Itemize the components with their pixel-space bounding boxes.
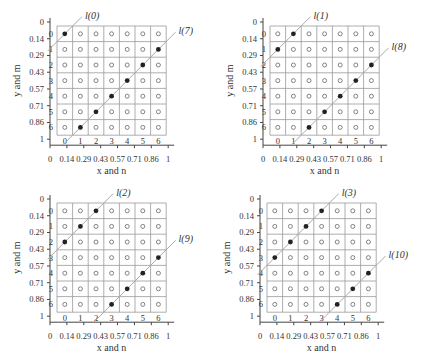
row-index-label: 3 bbox=[262, 76, 266, 86]
x-tick-label: 0.29 bbox=[76, 331, 91, 341]
hollow-dot bbox=[323, 47, 327, 51]
hollow-dot bbox=[156, 94, 160, 98]
hollow-dot bbox=[304, 271, 308, 275]
filled-dot bbox=[125, 286, 130, 291]
y-tick-label: 0.29 bbox=[29, 227, 44, 237]
hollow-dot bbox=[94, 271, 98, 275]
hollow-dot bbox=[366, 240, 370, 244]
hollow-dot bbox=[63, 224, 67, 228]
hollow-dot bbox=[94, 287, 98, 291]
hollow-dot bbox=[369, 32, 373, 36]
row-index-label: 3 bbox=[49, 76, 53, 86]
x-tick-label: 0.57 bbox=[110, 154, 125, 164]
filled-dot bbox=[140, 271, 145, 276]
hollow-dot bbox=[320, 302, 324, 306]
row-index-label: 4 bbox=[49, 91, 54, 101]
hollow-dot bbox=[94, 47, 98, 51]
x-tick-label: 0.86 bbox=[357, 154, 372, 164]
hollow-dot bbox=[369, 47, 373, 51]
row-index-label: 4 bbox=[262, 91, 267, 101]
hollow-dot bbox=[354, 32, 358, 36]
grid-diagram: 00.140.290.430.570.710.86100.140.290.430… bbox=[213, 0, 421, 178]
x-tick-label: 0.86 bbox=[354, 331, 369, 341]
hollow-dot bbox=[307, 79, 311, 83]
hollow-dot bbox=[338, 125, 342, 129]
filled-dot bbox=[62, 31, 67, 36]
x-tick-label: 0.86 bbox=[144, 331, 159, 341]
col-index-label: 5 bbox=[141, 136, 145, 146]
hollow-dot bbox=[291, 94, 295, 98]
row-index-label: 1 bbox=[262, 44, 266, 54]
hollow-dot bbox=[291, 47, 295, 51]
hollow-dot bbox=[156, 209, 160, 213]
hollow-dot bbox=[110, 110, 114, 114]
hollow-dot bbox=[304, 209, 308, 213]
col-index-label: 6 bbox=[369, 136, 373, 146]
col-index-label: 6 bbox=[156, 313, 160, 323]
hollow-dot bbox=[338, 79, 342, 83]
hollow-dot bbox=[276, 110, 280, 114]
hollow-dot bbox=[141, 256, 145, 260]
filled-dot bbox=[350, 286, 355, 291]
filled-dot bbox=[78, 224, 83, 229]
hollow-dot bbox=[63, 271, 67, 275]
hollow-dot bbox=[125, 302, 129, 306]
hollow-dot bbox=[354, 94, 358, 98]
hollow-dot bbox=[94, 302, 98, 306]
filled-dot bbox=[140, 63, 145, 68]
hollow-dot bbox=[63, 287, 67, 291]
hollow-dot bbox=[78, 79, 82, 83]
hollow-dot bbox=[320, 287, 324, 291]
hollow-dot bbox=[307, 94, 311, 98]
hollow-dot bbox=[338, 32, 342, 36]
hollow-dot bbox=[323, 79, 327, 83]
hollow-dot bbox=[307, 63, 311, 67]
hollow-dot bbox=[78, 240, 82, 244]
hollow-dot bbox=[276, 94, 280, 98]
y-tick-label: 0.71 bbox=[29, 278, 44, 288]
hollow-dot bbox=[366, 209, 370, 213]
hollow-dot bbox=[273, 224, 277, 228]
hollow-dot bbox=[141, 110, 145, 114]
hollow-dot bbox=[351, 256, 355, 260]
filled-dot bbox=[109, 94, 114, 99]
filled-dot bbox=[156, 255, 161, 260]
hollow-dot bbox=[78, 110, 82, 114]
hollow-dot bbox=[110, 287, 114, 291]
grid-diagram: 00.140.290.430.570.710.86100.140.290.430… bbox=[0, 0, 210, 178]
x-tick-label: 0.29 bbox=[289, 154, 304, 164]
hollow-dot bbox=[141, 79, 145, 83]
panel-top-left: 00.140.290.430.570.710.86100.140.290.430… bbox=[0, 0, 210, 178]
x-axis-label: x and n bbox=[97, 165, 126, 176]
col-index-label: 5 bbox=[141, 313, 145, 323]
row-index-label: 0 bbox=[49, 206, 53, 216]
y-tick-label: 0 bbox=[253, 17, 257, 27]
hollow-dot bbox=[273, 240, 277, 244]
hollow-dot bbox=[320, 256, 324, 260]
hollow-dot bbox=[63, 256, 67, 260]
x-tick-label: 1 bbox=[376, 331, 380, 341]
hollow-dot bbox=[156, 125, 160, 129]
hollow-dot bbox=[63, 209, 67, 213]
x-tick-label: 1 bbox=[379, 154, 383, 164]
filled-dot bbox=[288, 240, 293, 245]
x-tick-label: 0 bbox=[258, 331, 262, 341]
y-tick-label: 0.57 bbox=[242, 84, 257, 94]
row-index-label: 2 bbox=[49, 60, 53, 70]
col-index-label: 1 bbox=[288, 313, 292, 323]
hollow-dot bbox=[323, 63, 327, 67]
col-index-label: 0 bbox=[276, 136, 280, 146]
row-index-label: 0 bbox=[259, 206, 263, 216]
hollow-dot bbox=[110, 125, 114, 129]
hollow-dot bbox=[273, 271, 277, 275]
y-tick-label: 0.29 bbox=[242, 50, 257, 60]
y-tick-label: 0.29 bbox=[239, 227, 254, 237]
y-tick-label: 1 bbox=[253, 134, 257, 144]
x-tick-label: 0.71 bbox=[337, 331, 352, 341]
hollow-dot bbox=[141, 224, 145, 228]
hollow-dot bbox=[366, 302, 370, 306]
filled-dot bbox=[272, 255, 277, 260]
y-axis-label: y and m bbox=[11, 64, 22, 96]
hollow-dot bbox=[288, 256, 292, 260]
filled-dot bbox=[78, 125, 83, 130]
